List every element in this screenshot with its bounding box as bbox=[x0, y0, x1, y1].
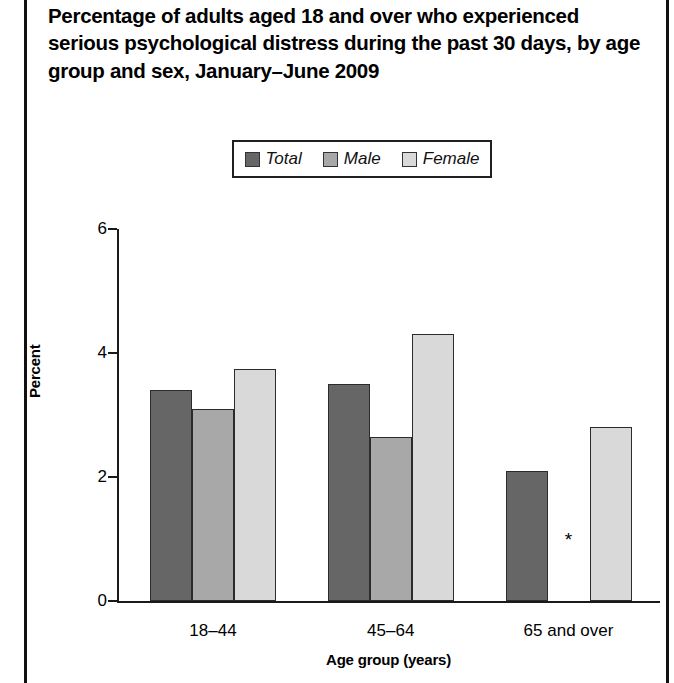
legend-item-total: Total bbox=[245, 149, 302, 169]
legend-item-male: Male bbox=[323, 149, 381, 169]
y-axis-tick-label: 6 bbox=[79, 219, 107, 239]
y-axis-tick bbox=[108, 352, 117, 354]
x-axis-line bbox=[117, 601, 660, 603]
y-axis-tick-label: 2 bbox=[79, 467, 107, 487]
legend-swatch-icon-female bbox=[402, 152, 417, 167]
y-axis-line bbox=[117, 229, 119, 601]
y-axis-tick-label: 4 bbox=[79, 343, 107, 363]
chart-legend: TotalMaleFemale bbox=[232, 140, 492, 178]
y-axis-title: Percent bbox=[26, 344, 43, 398]
x-axis-group-label: 45–64 bbox=[328, 621, 454, 641]
y-axis-tick-labels: 0246 bbox=[71, 229, 107, 601]
legend-label: Total bbox=[266, 149, 302, 169]
legend-label: Female bbox=[423, 149, 480, 169]
bar-total-0 bbox=[150, 390, 192, 601]
suppressed-value-marker: * bbox=[548, 530, 590, 549]
figure-page: Percentage of adults aged 18 and over wh… bbox=[0, 0, 674, 683]
page-left-rule bbox=[24, 0, 27, 683]
bar-male-0 bbox=[192, 409, 234, 601]
bar-female-1 bbox=[412, 334, 454, 601]
bar-male-1 bbox=[370, 437, 412, 601]
legend-label: Male bbox=[344, 149, 381, 169]
x-axis-title: Age group (years) bbox=[117, 651, 660, 668]
y-axis-tick bbox=[108, 228, 117, 230]
y-axis-tick-label: 0 bbox=[79, 591, 107, 611]
y-axis-tick bbox=[108, 476, 117, 478]
legend-item-female: Female bbox=[402, 149, 480, 169]
legend-swatch-icon-male bbox=[323, 152, 338, 167]
page-title: Percentage of adults aged 18 and over wh… bbox=[48, 2, 652, 84]
x-axis-group-label: 65 and over bbox=[506, 621, 632, 641]
y-axis-tick bbox=[108, 600, 117, 602]
legend-swatch-icon-total bbox=[245, 152, 260, 167]
bar-female-0 bbox=[234, 369, 276, 602]
bar-female-2 bbox=[590, 427, 632, 601]
chart-plot-area: 0246 * 18–4445–6465 and over bbox=[117, 229, 660, 601]
page-right-rule bbox=[666, 0, 669, 683]
x-axis-group-label: 18–44 bbox=[150, 621, 276, 641]
bar-total-2 bbox=[506, 471, 548, 601]
bar-total-1 bbox=[328, 384, 370, 601]
